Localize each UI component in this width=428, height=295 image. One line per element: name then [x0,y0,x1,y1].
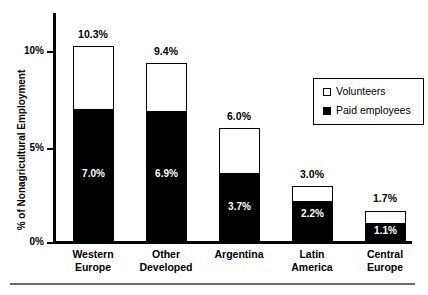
bar-total-label-other-developed: 9.4% [131,46,201,57]
bar-stack-other-developed[interactable] [146,63,187,244]
footer-divider [10,283,415,285]
y-tick-label-0: 0% [4,237,44,247]
bar-segment-volunteers-latin-america[interactable] [292,186,333,202]
x-axis-label-line2-western-europe: Europe [75,261,111,273]
hollow-square-icon [323,88,331,96]
y-tick-mark-0 [47,242,54,244]
bar-segment-volunteers-central-europe[interactable] [365,211,406,224]
legend-item-paid-employees[interactable]: Paid employees [323,105,411,116]
bar-stack-western-europe[interactable] [73,46,114,244]
x-axis-label-line2-latin-america: America [291,261,332,273]
y-tick-mark-10 [47,51,54,53]
x-axis-label-line1-western-europe: Western [72,248,113,260]
filled-square-icon [323,107,331,115]
x-axis-label-central-europe: Central Europe [342,248,428,274]
bar-value-label-paid-other-developed: 6.9% [146,168,187,179]
stacked-bar-chart: % of Nonagricultural Employment 10% 5% 0… [0,0,428,295]
y-tick-mark-5 [47,148,54,150]
bar-total-label-central-europe: 1.7% [350,193,420,204]
x-axis-label-line1-other-developed: Other [152,248,180,260]
x-axis-label-line1-central-europe: Central [367,248,403,260]
x-axis-label-line1-argentina: Argentina [214,248,263,260]
x-axis-label-line2-other-developed: Developed [139,261,192,273]
x-axis-label-line1-latin-america: Latin [299,248,324,260]
bar-segment-volunteers-argentina[interactable] [219,128,260,174]
y-tick-label-10: 10% [4,46,44,56]
bar-segment-volunteers-western-europe[interactable] [73,46,114,110]
bar-total-label-latin-america: 3.0% [277,169,347,180]
y-tick-label-5: 5% [4,143,44,153]
bar-value-label-paid-western-europe: 7.0% [73,168,114,179]
y-axis-line [53,13,56,244]
legend-label-volunteers: Volunteers [336,86,386,97]
bar-value-label-paid-central-europe: 1.1% [365,225,406,236]
legend-label-paid-employees: Paid employees [336,105,411,116]
chart-legend: Volunteers Paid employees [313,78,424,125]
x-axis-label-line2-central-europe: Europe [367,261,403,273]
bar-value-label-paid-argentina: 3.7% [219,201,260,212]
bar-value-label-paid-latin-america: 2.2% [292,208,333,219]
legend-item-volunteers[interactable]: Volunteers [323,86,386,97]
bar-total-label-argentina: 6.0% [204,111,274,122]
bar-total-label-western-europe: 10.3% [58,29,128,40]
bar-segment-volunteers-other-developed[interactable] [146,63,187,112]
bar-stack-argentina[interactable] [219,128,260,244]
